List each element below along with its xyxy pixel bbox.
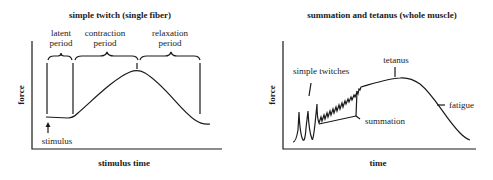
- relaxation-label-2: period: [159, 38, 182, 48]
- latent-label-1: latent: [51, 28, 71, 38]
- latent-brace: [48, 53, 72, 60]
- relaxation-brace: [140, 52, 200, 60]
- left-axes: [32, 41, 222, 149]
- right-axes: [283, 41, 476, 149]
- summation-pointer: [356, 116, 360, 119]
- contraction-label-1: contraction: [85, 28, 126, 38]
- stimulus-label: stimulus: [42, 136, 73, 146]
- simple-twitches-label: simple twitches: [293, 66, 350, 76]
- figure: simple twitch (single fiber) latent peri…: [0, 0, 493, 180]
- simple-twitch-chart: simple twitch (single fiber) latent peri…: [16, 10, 222, 168]
- arrowhead-icon: [46, 122, 51, 127]
- latent-label-2: period: [50, 38, 73, 48]
- fatigue-label: fatigue: [449, 100, 474, 110]
- contraction-label-2: period: [94, 38, 117, 48]
- left-title: simple twitch (single fiber): [69, 10, 171, 20]
- left-ylabel: force: [16, 85, 26, 104]
- right-title: summation and tetanus (whole muscle): [307, 10, 457, 20]
- right-xlabel: time: [370, 158, 387, 168]
- relaxation-label-1: relaxation: [152, 28, 188, 38]
- summation-label: summation: [365, 116, 405, 126]
- contraction-brace: [75, 52, 138, 60]
- summation-tetanus-chart: summation and tetanus (whole muscle) for…: [267, 10, 476, 168]
- right-ylabel: force: [267, 85, 277, 104]
- simple-twitches-pointer: [309, 83, 311, 96]
- tetanus-curve: [293, 78, 470, 142]
- left-xlabel: stimulus time: [98, 158, 150, 168]
- tetanus-label: tetanus: [383, 55, 409, 65]
- twitch-curve: [46, 71, 210, 124]
